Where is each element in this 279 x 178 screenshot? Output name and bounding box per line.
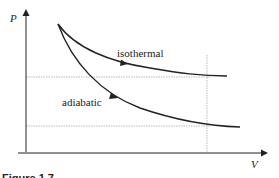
pv-diagram: P V isothermal adiabatic Figure 1.7 — [0, 0, 279, 178]
y-axis-label: P — [10, 12, 17, 24]
isothermal-label: isothermal — [117, 47, 163, 59]
adiabatic-label: adiabatic — [62, 96, 102, 108]
x-axis-label: V — [251, 158, 258, 170]
y-axis-arrow-icon — [23, 9, 30, 16]
figure-caption: Figure 1.7 — [2, 172, 54, 178]
x-axis-arrow-icon — [261, 150, 268, 157]
adiabatic-direction-arrow-icon — [109, 93, 118, 100]
diagram-canvas — [0, 0, 279, 178]
